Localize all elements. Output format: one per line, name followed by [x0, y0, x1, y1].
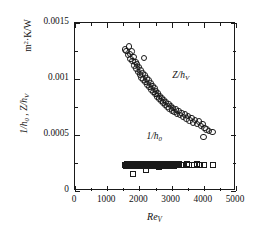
- axis-tick: [91, 23, 92, 26]
- figure: m2·K/W 1/h0 , Z/hV ReV 01000200030004000…: [0, 0, 258, 234]
- data-point-circle: [200, 134, 206, 140]
- axis-tick: [231, 135, 236, 136]
- axis-tick: [236, 186, 237, 191]
- axis-tick: [233, 163, 236, 164]
- y-tick-label: 0.001: [23, 72, 69, 82]
- axis-tick: [204, 23, 205, 28]
- axis-tick: [188, 188, 189, 191]
- axis-tick: [107, 186, 108, 191]
- data-point-circle: [209, 129, 215, 135]
- axis-tick: [188, 23, 189, 26]
- x-axis-title: ReV: [74, 211, 235, 224]
- axis-tick: [236, 23, 237, 28]
- axis-tick: [75, 135, 80, 136]
- axis-tick: [233, 51, 236, 52]
- axis-tick: [231, 191, 236, 192]
- y-tick-label: 0: [23, 184, 69, 194]
- axis-tick: [75, 51, 78, 52]
- axis-tick: [204, 186, 205, 191]
- axis-tick: [75, 107, 78, 108]
- axis-tick: [220, 188, 221, 191]
- y-tick-label: 0.0005: [23, 128, 69, 138]
- axis-tick: [156, 188, 157, 191]
- x-tick-label: 5000: [212, 194, 258, 204]
- axis-tick: [231, 23, 236, 24]
- data-point-square: [130, 171, 136, 177]
- series-annotation: 1/h0: [146, 131, 162, 142]
- axis-tick: [172, 23, 173, 28]
- axis-tick: [231, 79, 236, 80]
- axis-tick: [75, 191, 80, 192]
- axis-tick: [75, 23, 80, 24]
- plot-area: [74, 22, 235, 190]
- axis-tick: [139, 186, 140, 191]
- data-point-circle: [141, 55, 147, 61]
- axis-tick: [123, 23, 124, 26]
- axis-tick: [75, 163, 78, 164]
- axis-tick: [220, 23, 221, 26]
- data-point-square: [210, 162, 216, 168]
- axis-tick: [139, 23, 140, 28]
- axis-tick: [156, 23, 157, 26]
- axis-tick: [91, 188, 92, 191]
- data-point-square: [201, 162, 207, 168]
- axis-tick: [123, 188, 124, 191]
- axis-tick: [172, 186, 173, 191]
- y-tick-label: 0.0015: [23, 16, 69, 26]
- axis-tick: [75, 79, 80, 80]
- series-annotation: Z/hV: [172, 70, 189, 81]
- axis-tick: [107, 23, 108, 28]
- axis-tick: [233, 107, 236, 108]
